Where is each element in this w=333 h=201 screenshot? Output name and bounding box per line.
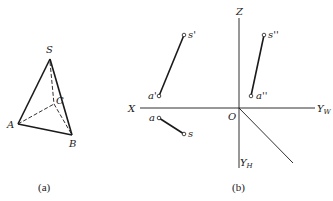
label-a-prime: a': [148, 90, 157, 101]
top-projection-line: [159, 118, 184, 134]
axis-label-x: X: [127, 103, 136, 114]
label-a: a: [149, 112, 155, 123]
axis-label-yh: YH: [240, 157, 254, 170]
point-a-double-prime: [249, 94, 253, 98]
diagonal-45-line: [239, 108, 293, 163]
caption-b: (b): [232, 181, 245, 194]
side-projection-line: [251, 35, 264, 96]
axis-label-yw: YW: [317, 103, 332, 116]
edge-AB: [18, 124, 72, 135]
figure-a-tetrahedron: S A B C (a): [6, 44, 76, 194]
vertex-label-B: B: [68, 138, 76, 149]
edge-SA: [18, 59, 50, 124]
vertex-label-A: A: [6, 119, 14, 130]
label-a-double-prime: a'': [256, 90, 267, 101]
front-projection-line: [159, 35, 184, 96]
vertex-label-C: C: [56, 95, 64, 106]
label-s-double-prime: s'': [268, 29, 279, 40]
axis-label-z: Z: [235, 6, 244, 17]
hidden-edge-CB: [54, 104, 72, 135]
diagram-canvas: S A B C (a) X Z O YW YH s' a' a s s'' a'…: [0, 0, 333, 201]
vertex-label-S: S: [46, 44, 53, 55]
point-a: [157, 116, 161, 120]
point-a-prime: [157, 94, 161, 98]
label-s-prime: s': [188, 29, 196, 40]
caption-a: (a): [38, 181, 51, 194]
point-s: [182, 132, 186, 136]
point-s-double-prime: [262, 33, 266, 37]
origin-label: O: [228, 111, 236, 122]
figure-b-projection: X Z O YW YH s' a' a s s'' a'' (b): [127, 6, 332, 194]
label-s: s: [188, 128, 193, 139]
point-s-prime: [182, 33, 186, 37]
